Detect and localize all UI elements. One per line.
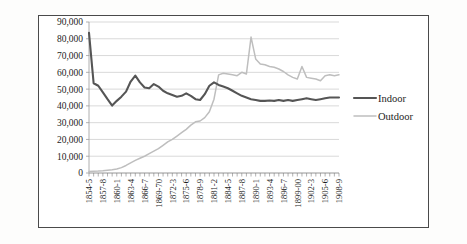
x-axis-tick-label: 1854-5 — [84, 179, 94, 203]
x-axis-tick-label: 1863-4 — [126, 178, 136, 203]
x-axis-tick-label: 1902-3 — [306, 179, 316, 203]
x-axis-tick-label: 1857-8 — [98, 179, 108, 203]
x-axis-tick-label: 1866-7 — [140, 178, 150, 203]
legend-label-outdoor: Outdoor — [378, 111, 414, 122]
y-axis-tick-label: 20,000 — [57, 135, 83, 145]
x-axis-tick-label: 1905-6 — [320, 178, 330, 203]
y-axis-tick-label: 80,000 — [57, 34, 83, 44]
series-line-outdoor — [89, 37, 339, 171]
x-axis-tick-label: 1884-5 — [223, 179, 233, 203]
y-axis-tick-label: 90,000 — [57, 17, 83, 27]
x-axis-tick-label: 1860-1 — [112, 179, 122, 203]
line-chart: 010,00020,00030,00040,00050,00060,00070,… — [39, 16, 428, 227]
x-axis-tick-label: 1887-8 — [237, 179, 247, 203]
y-axis-tick-label: 50,000 — [57, 85, 83, 95]
x-axis-tick-label: 1890-1 — [251, 179, 261, 203]
chart-figure: 010,00020,00030,00040,00050,00060,00070,… — [0, 0, 467, 244]
y-axis-tick-label: 10,000 — [57, 152, 83, 162]
x-axis-tick-label: 1878-9 — [195, 179, 205, 203]
x-axis-tick-label: 1869-70 — [154, 179, 164, 208]
y-axis-tick-label: 0 — [78, 168, 83, 178]
x-axis-tick-label: 1896-7 — [279, 178, 289, 203]
x-axis-tick-label: 1875-6 — [181, 178, 191, 203]
legend-label-indoor: Indoor — [378, 93, 406, 104]
x-axis-tick-label: 1908-9 — [334, 179, 344, 203]
y-axis-tick-label: 40,000 — [57, 101, 83, 111]
y-axis-tick-label: 70,000 — [57, 51, 83, 61]
x-axis-tick-label: 1899-00 — [293, 179, 303, 208]
y-axis-tick-label: 30,000 — [57, 118, 83, 128]
y-axis-tick-label: 60,000 — [57, 68, 83, 78]
chart-frame: 010,00020,00030,00040,00050,00060,00070,… — [38, 15, 429, 228]
x-axis-tick-label: 1893-4 — [265, 178, 275, 203]
x-axis-tick-label: 1872-3 — [168, 179, 178, 203]
x-axis-tick-label: 1881-2 — [209, 179, 219, 203]
